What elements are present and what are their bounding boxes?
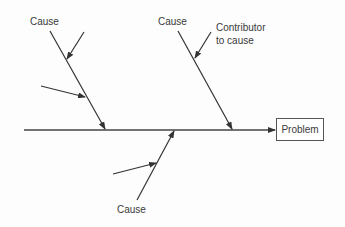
contributor-arrow-top-left-2: [41, 86, 85, 97]
cause-label-bottom: Cause: [117, 204, 146, 216]
cause-branch-bottom: [137, 131, 174, 200]
cause-branch-top-left: [50, 31, 105, 129]
cause-label-top-left: Cause: [30, 16, 59, 28]
problem-label: Problem: [281, 124, 318, 135]
cause-label-top-right: Cause: [158, 16, 187, 28]
contributor-label-line2: to cause: [216, 35, 254, 47]
contributor-arrow-top-left-1: [67, 32, 84, 59]
contributor-arrow-bottom: [113, 163, 156, 174]
contributor-arrow-top-right: [195, 32, 211, 58]
contributor-label-line1: Contributor: [216, 22, 265, 34]
diagram-lines: [0, 0, 345, 227]
fishbone-diagram: Cause Cause Contributor to cause Cause P…: [0, 0, 345, 227]
problem-box: Problem: [276, 118, 324, 141]
